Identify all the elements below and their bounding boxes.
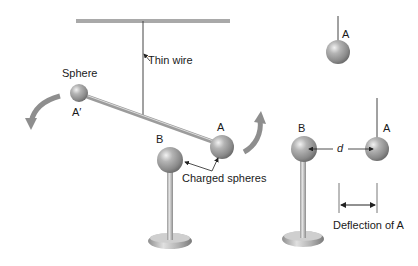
label-charged-spheres: Charged spheres <box>182 173 266 184</box>
label-a-top-right: A <box>342 29 349 40</box>
label-deflection: Deflection of A <box>333 220 404 231</box>
label-thin-wire: Thin wire <box>148 55 193 66</box>
sphere-a <box>210 135 234 159</box>
label-b-bottom-right: B <box>298 123 305 134</box>
charged-pointer-b <box>185 162 212 171</box>
ceiling-bar <box>76 19 230 23</box>
rotation-arrow-right-icon <box>244 120 260 152</box>
torsion-rod <box>80 94 222 145</box>
torsion-balance-diagram: Thin wire Sphere A′ A B Charged spheres … <box>0 0 418 266</box>
label-a: A <box>217 122 224 133</box>
label-distance-d: d <box>337 143 343 154</box>
label-a-bottom-right: A <box>383 123 390 134</box>
charged-pointer-a <box>212 158 218 171</box>
sphere-a-top-right <box>326 40 350 64</box>
label-sphere: Sphere <box>62 68 97 79</box>
sphere-b <box>157 147 183 173</box>
label-b: B <box>156 134 163 145</box>
sphere-a-prime <box>70 84 88 102</box>
stand-post-right <box>300 160 306 238</box>
label-a-prime: A′ <box>72 107 81 118</box>
stand-post-b <box>167 168 173 240</box>
